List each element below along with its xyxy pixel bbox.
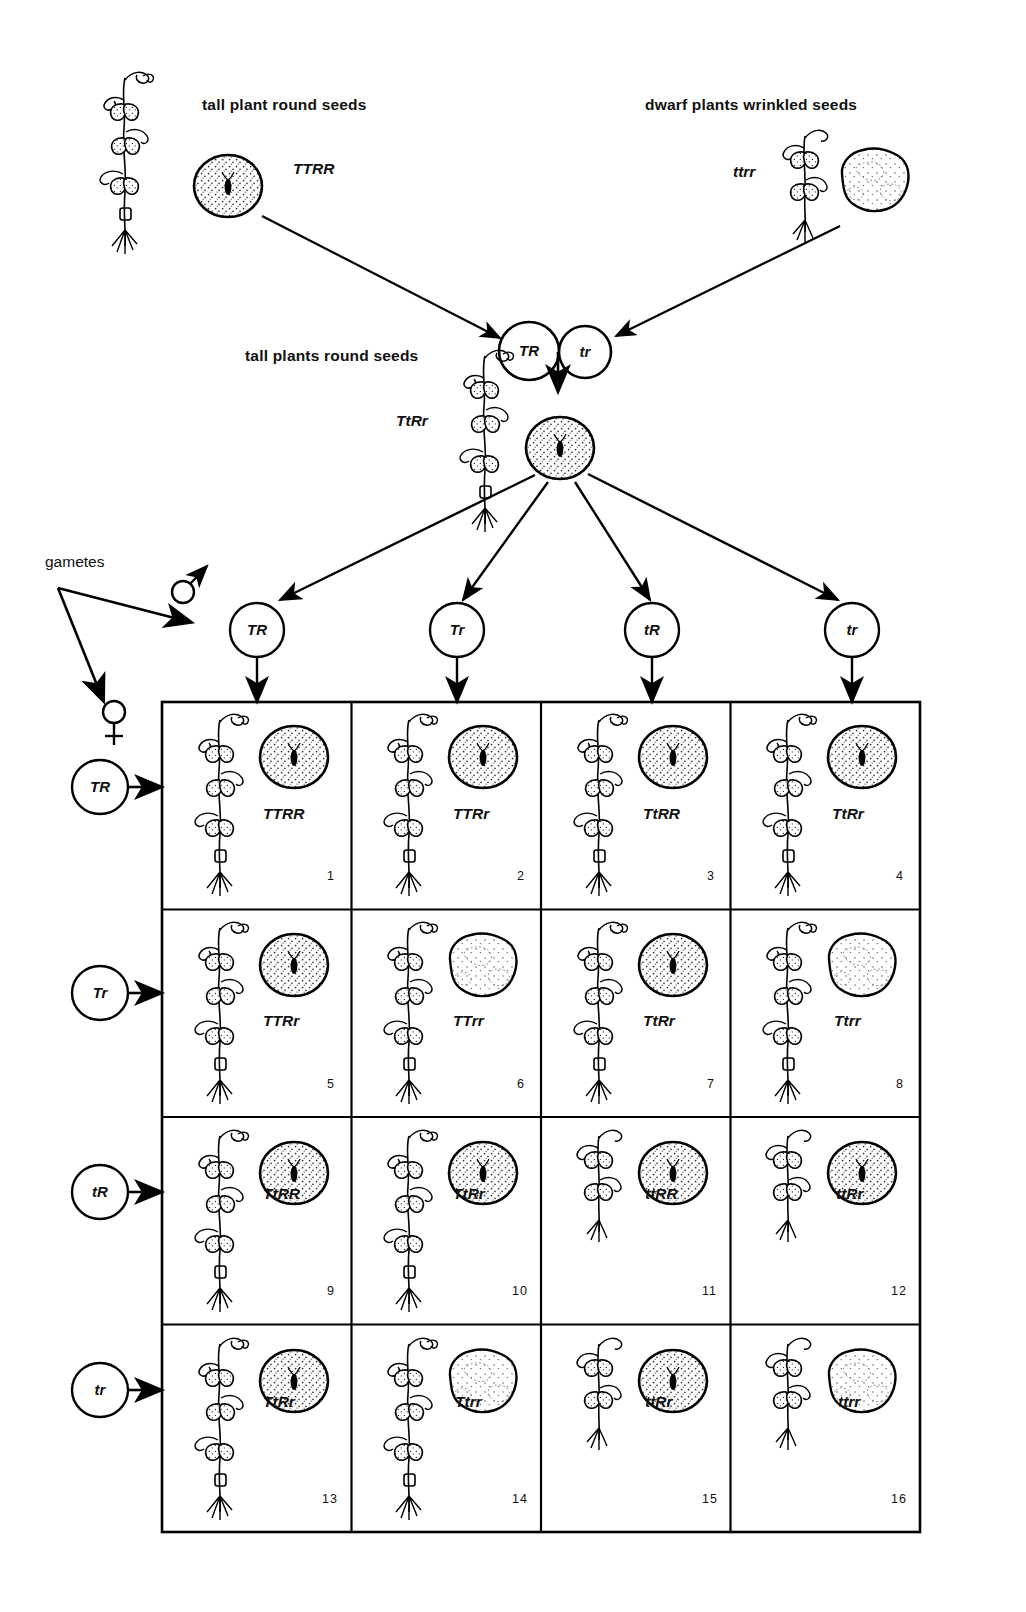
- parent-right-plant-illustration: [783, 130, 827, 242]
- punnett-cell-genotype: TtRR: [643, 805, 680, 823]
- punnett-cell-illustration: [195, 1130, 328, 1312]
- punnett-cell-illustration: [763, 714, 896, 896]
- gamete-col-label-2: Tr: [438, 621, 476, 638]
- cross-arrow-right: [616, 226, 840, 336]
- punnett-cell-illustration: [574, 714, 707, 896]
- punnett-cell-number: 15: [702, 1492, 718, 1506]
- parent-right-genotype: ttrr: [733, 163, 755, 181]
- f1-plant-illustration: [460, 350, 513, 532]
- male-symbol-icon: [172, 566, 207, 603]
- parent-left-label: tall plant round seeds: [202, 96, 367, 114]
- punnett-cell-genotype: TtRr: [453, 1185, 485, 1203]
- punnett-cell-number: 16: [891, 1492, 907, 1506]
- punnett-cell-illustration: [384, 1338, 516, 1520]
- parent-left-plant-illustration: [100, 72, 153, 254]
- punnett-cell-number: 5: [327, 1077, 335, 1091]
- punnett-cell-genotype: Ttrr: [455, 1393, 482, 1411]
- gamete-col-label-3: tR: [633, 621, 671, 638]
- punnett-cell-genotype: TTRr: [453, 805, 489, 823]
- punnett-cell-illustration: [574, 922, 707, 1104]
- punnett-cell-illustration: [384, 714, 517, 896]
- female-symbol-icon: [103, 701, 125, 745]
- punnett-cell-number: 14: [512, 1492, 528, 1506]
- punnett-cell-genotype: TtRR: [263, 1185, 300, 1203]
- fusion-gamete-right-label: tr: [568, 343, 602, 360]
- punnett-cell-number: 4: [896, 869, 904, 883]
- punnett-cell-genotype: TTrr: [453, 1012, 484, 1030]
- parent-left-genotype: TTRR: [293, 160, 334, 178]
- diagram-page: tall plant round seeds TTRR dwarf plants…: [0, 0, 1026, 1612]
- gamete-row-label-4: tr: [81, 1381, 119, 1398]
- punnett-cell-illustration: [577, 1130, 707, 1242]
- punnett-cell-number: 1: [327, 869, 335, 883]
- punnett-cell-number: 11: [702, 1284, 717, 1298]
- punnett-cell-illustration: [766, 1130, 896, 1242]
- gametes-label: gametes: [45, 553, 104, 571]
- punnett-cell-genotype: TtRr: [263, 1393, 295, 1411]
- punnett-cell-genotype: TTRR: [263, 805, 304, 823]
- punnett-cell-genotype: ttRR: [645, 1185, 678, 1203]
- punnett-cell-illustration: [384, 922, 516, 1104]
- gamete-col-label-1: TR: [238, 621, 276, 638]
- gamete-row-label-3: tR: [81, 1183, 119, 1200]
- punnett-cell-genotype: ttRr: [836, 1185, 864, 1203]
- gamete-row-label-2: Tr: [81, 984, 119, 1001]
- parent-right-label: dwarf plants wrinkled seeds: [645, 96, 857, 114]
- punnett-cell-illustration: [195, 922, 328, 1104]
- punnett-cell-number: 6: [517, 1077, 525, 1091]
- punnett-cell-illustration: [766, 1338, 895, 1450]
- parent-left-seed-round: [194, 155, 262, 217]
- punnett-cell-illustration: [384, 1130, 517, 1312]
- punnett-cell-illustration: [195, 1338, 328, 1520]
- punnett-cell-illustration: [195, 714, 328, 896]
- f1-gamete-arrow-1: [280, 475, 535, 600]
- gamete-col-label-4: tr: [833, 621, 871, 638]
- f1-seed-round: [526, 417, 594, 479]
- fusion-gamete-left-label: TR: [510, 342, 548, 359]
- parent-right-seed-wrinkled: [842, 149, 909, 211]
- punnett-cell-genotype: ttRr: [645, 1393, 673, 1411]
- punnett-cell-number: 10: [512, 1284, 528, 1298]
- f1-gamete-arrow-2: [463, 482, 548, 600]
- gametes-pointer-male: [58, 588, 190, 622]
- punnett-cell-number: 2: [517, 869, 525, 883]
- punnett-cell-illustration: [577, 1338, 707, 1450]
- f1-gamete-arrow-4: [588, 474, 838, 600]
- punnett-cell-genotype: TTRr: [263, 1012, 299, 1030]
- punnett-cell-genotype: TtRr: [643, 1012, 675, 1030]
- punnett-cell-genotype: TtRr: [832, 805, 864, 823]
- punnett-cell-genotype: Ttrr: [834, 1012, 861, 1030]
- gametes-pointer-female: [58, 588, 103, 700]
- punnett-cell-number: 7: [707, 1077, 715, 1091]
- punnett-cell-number: 3: [707, 869, 715, 883]
- punnett-cell-number: 8: [896, 1077, 904, 1091]
- gamete-row-label-1: TR: [81, 778, 119, 795]
- punnett-cell-illustration: [763, 922, 895, 1104]
- cross-arrow-left: [262, 216, 500, 338]
- punnett-cell-number: 12: [891, 1284, 907, 1298]
- diagram-canvas: [0, 0, 1026, 1612]
- punnett-cell-number: 9: [327, 1284, 335, 1298]
- f1-genotype: TtRr: [396, 412, 428, 430]
- punnett-cell-genotype: ttrr: [838, 1393, 860, 1411]
- f1-label: tall plants round seeds: [245, 347, 418, 365]
- punnett-cell-number: 13: [322, 1492, 338, 1506]
